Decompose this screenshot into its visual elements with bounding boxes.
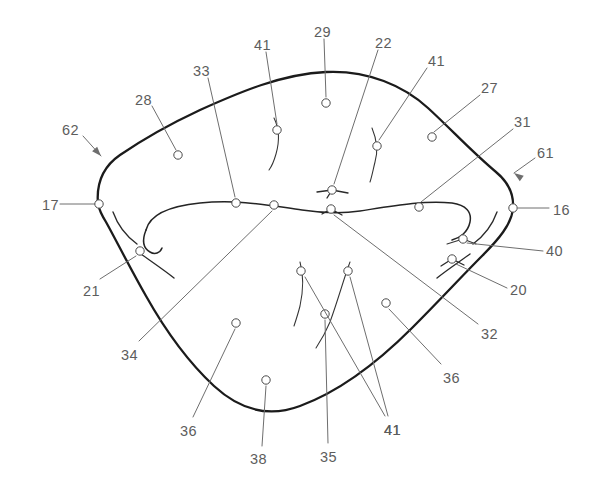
leader-terminator-36 bbox=[232, 319, 240, 327]
leader-line-61 bbox=[514, 158, 535, 173]
wavy-tick-41-top-right bbox=[370, 128, 377, 182]
reference-numeral-32: 32 bbox=[481, 327, 498, 342]
leader-terminator-27 bbox=[428, 133, 436, 141]
reference-numeral-21: 21 bbox=[83, 284, 100, 299]
leader-line-28 bbox=[152, 106, 176, 150]
leader-terminator-21 bbox=[136, 247, 144, 255]
leader-line-38 bbox=[262, 386, 266, 446]
reference-numeral-29: 29 bbox=[314, 25, 331, 40]
reference-numeral-17: 17 bbox=[42, 198, 59, 213]
reference-numeral-40: 40 bbox=[546, 244, 563, 259]
leader-line-41 bbox=[350, 277, 388, 416]
leader-line-35 bbox=[325, 320, 328, 443]
patent-figure: 1762283341292241273161164020322134363835… bbox=[0, 0, 593, 480]
reference-numeral-31: 31 bbox=[514, 115, 531, 130]
leader-terminator-16 bbox=[509, 204, 517, 212]
leader-terminator-41 bbox=[273, 126, 281, 134]
outline-group bbox=[98, 72, 513, 412]
reference-numeral-61: 61 bbox=[537, 146, 554, 161]
leader-terminator-17 bbox=[95, 200, 103, 208]
leader-terminator-28 bbox=[174, 151, 182, 159]
tick-mark-right-upper bbox=[473, 212, 497, 244]
leader-terminator-31 bbox=[415, 203, 423, 211]
reference-numeral-41: 41 bbox=[428, 54, 445, 69]
reference-numeral-41: 41 bbox=[384, 423, 401, 438]
leader-terminator-33 bbox=[232, 199, 240, 207]
leader-line-22 bbox=[334, 50, 378, 184]
leader-terminator-32 bbox=[327, 205, 335, 213]
reference-numeral-27: 27 bbox=[481, 81, 498, 96]
reference-numeral-36: 36 bbox=[443, 371, 460, 386]
leader-line-32 bbox=[334, 215, 478, 324]
reference-numeral-33: 33 bbox=[193, 64, 210, 79]
reference-numeral-38: 38 bbox=[250, 452, 267, 467]
reference-numeral-41: 41 bbox=[254, 38, 271, 53]
reference-numeral-22: 22 bbox=[375, 36, 392, 51]
leader-terminator-38 bbox=[262, 376, 270, 384]
tick-mark-left-upper bbox=[113, 212, 137, 244]
leader-terminator-34 bbox=[270, 201, 278, 209]
tick-marks-group bbox=[113, 118, 497, 348]
leader-line-36 bbox=[193, 329, 235, 417]
reference-numeral-62: 62 bbox=[62, 123, 79, 138]
leader-terminator-20 bbox=[448, 255, 456, 263]
leader-line-27 bbox=[434, 95, 480, 132]
leader-line-36 bbox=[389, 309, 441, 364]
leader-line-40 bbox=[467, 243, 543, 251]
leader-terminator-22 bbox=[328, 186, 336, 194]
leader-line-29 bbox=[324, 39, 326, 97]
leader-terminator-41 bbox=[297, 267, 305, 275]
reference-numeral-16: 16 bbox=[553, 203, 570, 218]
leader-terminator-29 bbox=[322, 99, 330, 107]
reference-numeral-28: 28 bbox=[135, 93, 152, 108]
leader-line-34 bbox=[139, 211, 272, 341]
outer-boundary bbox=[98, 72, 513, 412]
leader-terminator-41 bbox=[344, 267, 352, 275]
reference-numeral-20: 20 bbox=[510, 283, 527, 298]
leader-terminator-41 bbox=[373, 142, 381, 150]
leader-terminator-36 bbox=[382, 299, 390, 307]
reference-numeral-36: 36 bbox=[180, 424, 197, 439]
leader-line-41 bbox=[379, 68, 427, 140]
leader-line-41 bbox=[266, 52, 277, 124]
arrow-head-61 bbox=[514, 173, 524, 181]
inner-curve-left-tail bbox=[144, 230, 162, 253]
figure-canvas bbox=[0, 0, 593, 480]
reference-numeral-34: 34 bbox=[121, 348, 138, 363]
reference-numeral-35: 35 bbox=[320, 450, 337, 465]
leader-terminator-40 bbox=[459, 235, 467, 243]
tick-mark-left-lower bbox=[141, 254, 174, 278]
